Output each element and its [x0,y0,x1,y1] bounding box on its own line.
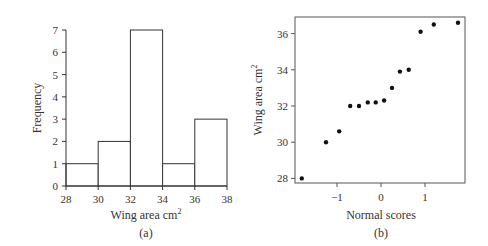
data-point [390,86,394,90]
data-point [337,129,341,133]
data-point [374,100,378,104]
x-tick-label: 1 [422,191,428,203]
y-tick-label: 3 [53,113,59,125]
x-tick-label: −1 [331,191,343,203]
data-point [432,22,436,26]
x-tick-label: 0 [378,191,384,203]
y-tick-label: 2 [53,135,59,147]
hist-y-axis-title: Frequency [30,83,44,134]
histogram-bar [66,164,98,186]
histogram-bar [195,119,227,186]
qq-y-axis-title: Wing area cm2 [250,65,265,136]
y-tick-label: 0 [53,180,59,192]
qq-plot-frame [295,17,465,183]
data-point [348,104,352,108]
normal-plot-panel: −101 2830323436 Normal scores Wing area … [250,17,465,240]
hist-y-ticks: 01234567 [53,24,67,192]
x-tick-label: 32 [125,193,136,205]
data-point [324,140,328,144]
hist-x-axis-title: Wing area cm2 [111,207,182,222]
qq-data-points [300,21,461,181]
figure: 283032343638 01234567 Wing area cm2 Freq… [0,0,488,246]
y-tick-label: 1 [53,158,59,170]
data-point [382,98,386,102]
histogram-bar [130,30,162,186]
data-point [418,30,422,34]
x-tick-label: 28 [61,193,73,205]
y-tick-label: 34 [277,64,289,76]
data-point [398,69,402,73]
data-point [456,21,460,25]
qq-y-ticks: 2830323436 [277,28,295,185]
histogram-bars [66,30,227,186]
y-tick-label: 36 [277,28,289,40]
x-tick-label: 38 [222,193,234,205]
histogram-bar [163,164,195,186]
x-tick-label: 34 [157,193,169,205]
qq-x-ticks: −101 [331,183,428,203]
hist-panel-label: (a) [139,226,152,240]
y-tick-label: 30 [277,136,289,148]
hist-x-ticks: 283032343638 [61,186,234,205]
y-tick-label: 28 [277,172,289,184]
data-point [366,100,370,104]
histogram-bar [98,141,130,186]
histogram-panel: 283032343638 01234567 Wing area cm2 Freq… [30,24,233,240]
y-tick-label: 7 [53,24,59,36]
y-tick-label: 4 [53,91,59,103]
data-point [407,68,411,72]
data-point [357,104,361,108]
x-tick-label: 30 [93,193,105,205]
x-tick-label: 36 [189,193,201,205]
y-tick-label: 5 [53,69,59,81]
y-tick-label: 6 [53,46,59,58]
qq-x-axis-title: Normal scores [346,208,416,222]
data-point [300,176,304,180]
qq-panel-label: (b) [374,226,388,240]
y-tick-label: 32 [277,100,288,112]
